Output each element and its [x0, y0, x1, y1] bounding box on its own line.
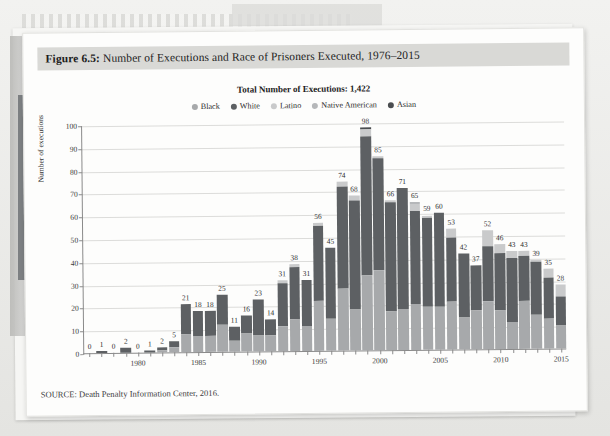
bar-segment-white	[360, 136, 372, 275]
y-axis-tick-label: 50	[71, 236, 79, 245]
bar-value-label: 74	[338, 171, 345, 180]
bar-segment-white	[193, 311, 204, 336]
bar-column[interactable]: 181985	[191, 125, 204, 352]
bar-value-label: 1	[100, 340, 104, 349]
x-axis-tick-mark	[513, 349, 514, 353]
bar-column[interactable]: 98	[360, 123, 373, 350]
y-axis-tick-label: 100	[66, 122, 77, 131]
bar-segment-white	[458, 254, 469, 318]
bar-value-label: 0	[88, 342, 92, 351]
x-axis-tick-mark	[283, 351, 284, 355]
bar-column[interactable]: 68	[348, 123, 361, 350]
bar-column[interactable]: 65	[409, 123, 422, 350]
bar-column[interactable]: 602005	[433, 123, 446, 350]
x-axis-tick-label: 1985	[191, 358, 206, 367]
bar-column[interactable]: 53	[445, 123, 458, 350]
bar-column[interactable]: 852000	[372, 123, 385, 350]
x-axis-tick-mark	[356, 351, 357, 355]
y-axis-tick-label: 80	[70, 167, 78, 176]
bar-column[interactable]: 282015	[554, 122, 567, 349]
bar-column[interactable]: 35	[542, 122, 555, 349]
bar-column[interactable]: 1	[143, 125, 156, 352]
bar-column[interactable]: 31	[300, 124, 313, 351]
bar-segment-black	[531, 315, 542, 349]
y-axis-tick-label: 30	[71, 281, 79, 290]
x-axis-tick-mark	[295, 351, 296, 355]
bar-segment-black	[253, 335, 264, 351]
bar-column[interactable]: 16	[239, 125, 252, 352]
bar-column[interactable]: 39	[530, 122, 543, 349]
bar-segment-black	[410, 304, 421, 350]
bar-column[interactable]: 0	[106, 126, 119, 353]
bar-segment-white	[301, 280, 312, 326]
plot-area: Number of executions 0102030405060708090…	[38, 117, 572, 372]
x-axis-tick-mark	[162, 352, 163, 356]
x-axis-tick-mark	[489, 349, 490, 353]
bar-segment-white	[482, 247, 493, 302]
bar-segment-black	[544, 319, 555, 349]
bar-segment-white	[519, 255, 530, 301]
bar-column[interactable]: 43	[505, 122, 518, 349]
bar-segment-black	[435, 306, 446, 349]
bar-column[interactable]: 21	[179, 125, 192, 352]
x-axis-tick-mark	[223, 352, 224, 356]
bar-column[interactable]: 59	[421, 123, 434, 350]
bar-column[interactable]: 2	[155, 125, 168, 352]
x-axis-tick-mark	[561, 349, 562, 353]
bar-segment-black	[374, 270, 385, 350]
bar-value-label: 98	[362, 116, 369, 125]
bar-segment-black	[398, 309, 409, 350]
bar-column[interactable]: 11	[227, 125, 240, 352]
bar-column[interactable]: 5	[167, 125, 180, 352]
legend-swatch-icon	[271, 103, 277, 109]
bar-column[interactable]: 71	[396, 123, 409, 350]
bar-segment-white	[531, 262, 542, 315]
x-axis-tick-mark	[501, 349, 502, 353]
bar-column[interactable]: 25	[215, 125, 228, 352]
bar-column[interactable]: 45	[324, 124, 337, 351]
bar-segment-black	[217, 324, 228, 351]
bar-value-label: 5	[172, 330, 176, 339]
y-axis-tick-label: 20	[71, 304, 79, 313]
bar-column[interactable]: 74	[336, 124, 349, 351]
y-axis-tick-label: 0	[75, 350, 79, 359]
bar-column[interactable]: 66	[384, 123, 397, 350]
bar-segment-white	[555, 296, 566, 326]
bar-segment-white	[205, 311, 216, 336]
bar-segment-black	[205, 336, 216, 352]
y-axis-tick-label: 60	[70, 213, 78, 222]
bar-column[interactable]: 2	[118, 126, 131, 353]
bar-column[interactable]: 0	[82, 126, 95, 353]
x-axis-tick-mark	[307, 351, 308, 355]
bar-column[interactable]: 231990	[251, 124, 264, 351]
bar-segment-white	[325, 248, 336, 319]
bar-segment-white	[181, 304, 192, 334]
figure-caption-text: Number of Executions and Race of Prisone…	[103, 49, 420, 64]
bar-segment-black	[193, 336, 204, 352]
bar-column[interactable]: 18	[203, 125, 216, 352]
bar-column[interactable]: 38	[288, 124, 301, 351]
bar-column[interactable]: 37	[469, 122, 482, 349]
bar-column[interactable]: 561995	[312, 124, 325, 351]
x-axis-tick-mark	[186, 352, 187, 356]
bar-column[interactable]: 462010	[493, 122, 506, 349]
bar-segment-black	[495, 310, 506, 349]
bar-column[interactable]: 52	[481, 122, 494, 349]
legend-swatch-icon	[312, 102, 318, 108]
bar-column[interactable]: 42	[457, 122, 470, 349]
bar-segment-black	[338, 289, 349, 351]
x-axis-tick-mark	[392, 350, 393, 354]
bar-column[interactable]: 31	[276, 124, 289, 351]
x-axis-tick-label: 1980	[130, 359, 145, 368]
bar-column[interactable]: 01980	[130, 126, 143, 353]
legend-item-black: Black	[192, 102, 220, 111]
bar-value-label: 25	[218, 284, 225, 293]
bar-column[interactable]: 14	[263, 124, 276, 351]
bar-segment-latino	[494, 244, 505, 253]
bar-segment-white	[241, 315, 252, 333]
bar-value-label: 18	[194, 300, 201, 309]
bar-column[interactable]: 43	[517, 122, 530, 349]
bar-value-label: 46	[496, 233, 503, 242]
bar-column[interactable]: 1	[94, 126, 107, 353]
plot-canvas: 0102030405060708090100 01020198012521181…	[82, 122, 566, 355]
